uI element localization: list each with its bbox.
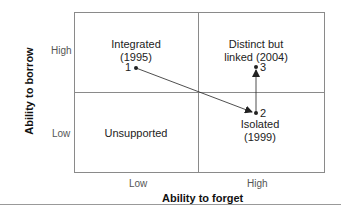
bottom-rule — [0, 204, 341, 205]
point-1-marker — [134, 66, 138, 70]
point-2-marker — [254, 111, 258, 115]
point-3-marker — [254, 65, 258, 69]
arrows-layer — [0, 0, 341, 218]
arrow-1-to-2 — [136, 68, 252, 112]
